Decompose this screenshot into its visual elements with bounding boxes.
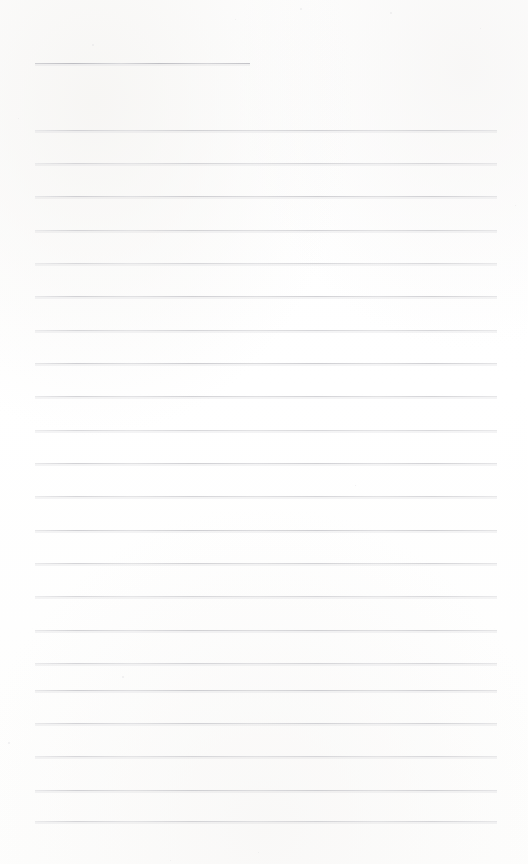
note-page bbox=[0, 0, 528, 864]
page-body-text bbox=[0, 0, 528, 864]
